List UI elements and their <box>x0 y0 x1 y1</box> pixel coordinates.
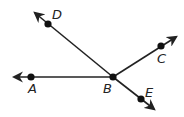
label-D: D <box>52 7 62 22</box>
point-D <box>44 20 51 27</box>
label-A: A <box>27 81 37 96</box>
point-A <box>27 73 34 80</box>
ray-BC <box>113 37 176 77</box>
point-B <box>109 73 116 80</box>
label-C: C <box>157 51 167 66</box>
point-E <box>137 95 144 102</box>
label-E: E <box>145 85 154 100</box>
point-C <box>157 42 164 49</box>
rays-diagram: ABCDE <box>0 0 184 117</box>
label-B: B <box>103 81 112 96</box>
